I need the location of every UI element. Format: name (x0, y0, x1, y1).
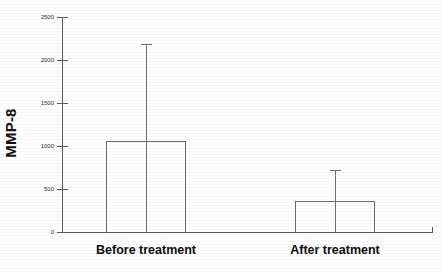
x-axis-label-before-treatment: Before treatment (56, 243, 236, 257)
error-bar-cap-after-treatment (330, 170, 341, 171)
y-tick-label-1000: 1000 (10, 143, 54, 149)
bar-chart: MMP-8 2500 2000 1500 1000 500 0 Before t… (0, 0, 442, 272)
x-axis-end-tick (432, 227, 433, 233)
y-axis-title: MMP-8 (2, 78, 19, 188)
y-axis-line (62, 17, 63, 233)
x-axis-label-after-treatment: After treatment (245, 243, 425, 257)
y-tick-label-2000: 2000 (10, 57, 54, 63)
error-bar-cap-before-treatment (141, 44, 152, 45)
error-bar-stem-before-treatment (146, 44, 147, 232)
x-axis-line (62, 232, 433, 233)
y-tick-mark-0 (57, 232, 68, 233)
y-tick-mark-500 (57, 189, 68, 190)
y-tick-label-1500: 1500 (10, 100, 54, 106)
y-tick-label-0: 0 (10, 229, 54, 235)
error-bar-stem-after-treatment (335, 170, 336, 232)
y-tick-mark-2500 (57, 17, 68, 18)
y-tick-mark-1500 (57, 103, 68, 104)
y-tick-label-2500: 2500 (10, 14, 54, 20)
y-tick-mark-1000 (57, 146, 68, 147)
y-tick-label-500: 500 (10, 186, 54, 192)
y-tick-mark-2000 (57, 60, 68, 61)
